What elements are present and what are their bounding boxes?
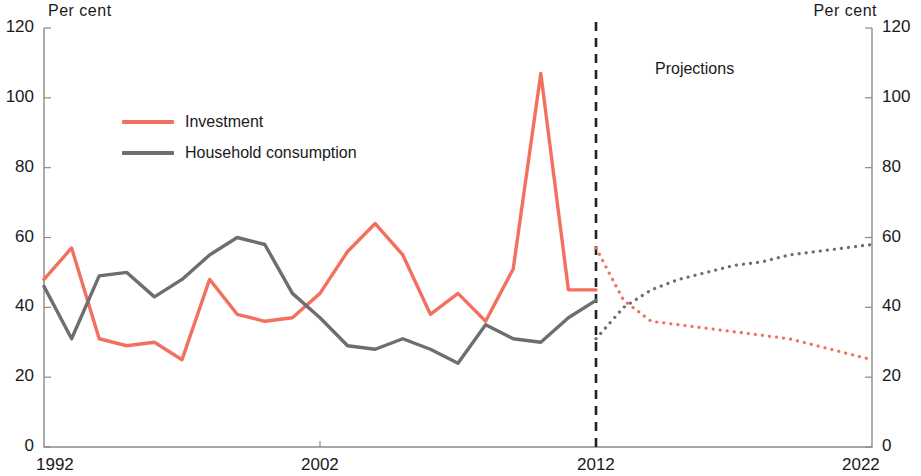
y-axis-tick-left-40: 40 — [15, 296, 34, 316]
y-axis-tick-left-20: 20 — [15, 366, 34, 386]
y-axis-tick-right-0: 0 — [882, 436, 891, 456]
y-axis-tick-left-60: 60 — [15, 227, 34, 247]
y-axis-tick-right-120: 120 — [882, 17, 910, 37]
y-axis-tick-right-100: 100 — [882, 87, 910, 107]
y-axis-tick-left-100: 100 — [6, 87, 34, 107]
series-line-household-consumption-projection — [596, 244, 872, 338]
y-axis-tick-right-40: 40 — [882, 296, 901, 316]
chart-container: Per cent Per cent Projections Investment… — [0, 0, 921, 476]
x-axis-tick-1992: 1992 — [36, 455, 74, 475]
x-axis-tick-2022: 2022 — [842, 455, 880, 475]
series-line-investment-projection — [596, 248, 872, 360]
y-axis-tick-right-60: 60 — [882, 227, 901, 247]
chart-plot-area — [0, 0, 921, 476]
y-axis-tick-right-20: 20 — [882, 366, 901, 386]
y-axis-tick-left-120: 120 — [6, 17, 34, 37]
y-axis-tick-right-80: 80 — [882, 157, 901, 177]
x-axis-tick-2012: 2012 — [577, 455, 615, 475]
x-axis-tick-2002: 2002 — [301, 455, 339, 475]
y-axis-tick-left-0: 0 — [25, 436, 34, 456]
y-axis-tick-left-80: 80 — [15, 157, 34, 177]
